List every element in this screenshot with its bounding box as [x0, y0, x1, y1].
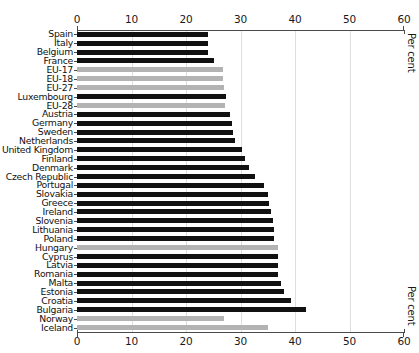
x-axis-tick-label-bottom-40: 40: [289, 335, 302, 347]
x-axis-tick-label-top-40: 40: [289, 13, 302, 25]
x-axis-tick-label-top-0: 0: [74, 13, 80, 25]
bar-slovakia: [77, 192, 268, 197]
bar-croatia: [77, 298, 291, 303]
bar-ireland: [77, 209, 271, 214]
bar-norway: [77, 316, 224, 321]
bar-estonia: [77, 289, 284, 294]
bar-netherlands: [77, 138, 235, 143]
x-axis-tick-label-bottom-30: 30: [234, 335, 247, 347]
bar-eu-27: [77, 85, 224, 90]
bar-poland: [77, 236, 274, 241]
bar-sweden: [77, 130, 233, 135]
bar-finland: [77, 156, 245, 161]
x-axis-tick-label-top-30: 30: [234, 13, 247, 25]
x-axis-tick-top-60: [404, 30, 405, 34]
axis-title-top: Per cent: [406, 33, 417, 72]
bar-malta: [77, 281, 281, 286]
bar-hungary: [77, 245, 278, 250]
x-axis-tick-label-bottom-60: 60: [398, 335, 411, 347]
bar-luxembourg: [77, 94, 226, 99]
bar-denmark: [77, 165, 249, 170]
bar-italy: [77, 41, 208, 46]
bar-germany: [77, 121, 232, 126]
bar-eu-18: [77, 76, 223, 81]
bar-greece: [77, 201, 269, 206]
bar-chart: 00101020203030404050506060 SpainItalyBel…: [0, 0, 419, 353]
gridline-50: [350, 31, 351, 332]
bar-eu-28: [77, 103, 225, 108]
bar-belgium: [77, 50, 208, 55]
gridline-40: [295, 31, 296, 332]
bar-latvia: [77, 263, 278, 268]
bar-portugal: [77, 183, 264, 188]
x-axis-tick-bottom-60: [404, 329, 405, 333]
bar-romania: [77, 272, 278, 277]
bar-bulgaria: [77, 307, 306, 312]
bar-iceland: [77, 325, 268, 330]
x-axis-tick-label-top-10: 10: [125, 13, 138, 25]
bar-cyprus: [77, 254, 278, 259]
category-label-iceland: Iceland: [41, 323, 73, 332]
x-axis-tick-label-bottom-10: 10: [125, 335, 138, 347]
x-axis-tick-label-bottom-0: 0: [74, 335, 80, 347]
axis-title-bottom: Per cent: [406, 286, 417, 325]
x-axis-tick-label-bottom-50: 50: [343, 335, 356, 347]
bar-slovenia: [77, 218, 273, 223]
bar-czech-republic: [77, 174, 255, 179]
bar-france: [77, 58, 214, 63]
bar-lithuania: [77, 227, 274, 232]
bar-united-kingdom: [77, 147, 242, 152]
gridline-30: [241, 31, 242, 332]
bar-spain: [77, 32, 208, 37]
bar-eu-17: [77, 67, 223, 72]
x-axis-tick-label-top-50: 50: [343, 13, 356, 25]
x-axis-tick-label-top-20: 20: [180, 13, 193, 25]
x-axis-tick-label-bottom-20: 20: [180, 335, 193, 347]
bar-austria: [77, 112, 230, 117]
x-axis-tick-label-top-60: 60: [398, 13, 411, 25]
